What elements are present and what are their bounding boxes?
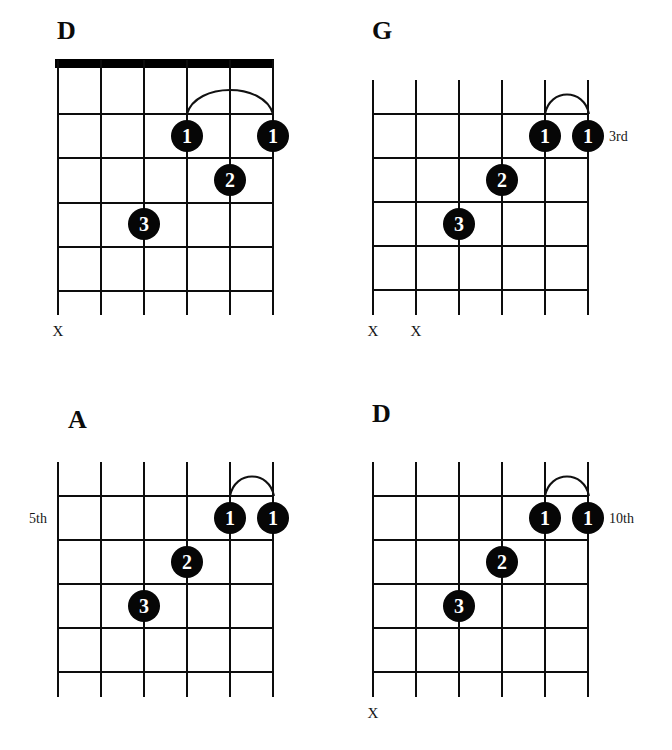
fret-line-5 (57, 671, 272, 673)
string-line-3 (143, 462, 145, 697)
string-line-2 (100, 60, 102, 315)
string-line-6 (587, 80, 589, 315)
string-line-6 (272, 462, 274, 697)
fret-line-3 (57, 583, 272, 585)
finger-dot: 3 (443, 590, 475, 622)
string-line-4 (186, 462, 188, 697)
finger-dot: 1 (529, 120, 561, 152)
finger-dot: 2 (486, 546, 518, 578)
string-line-5 (544, 80, 546, 315)
finger-dot: 3 (443, 208, 475, 240)
fretboard-grid-a-5th: 1 1 2 3 5th (57, 462, 272, 697)
fret-position-label: 5th (13, 512, 47, 526)
chord-diagram-d-open: D 1 1 2 3 X (0, 0, 336, 375)
finger-dot: 2 (486, 164, 518, 196)
muted-string-marker: X (51, 324, 65, 339)
fret-line-5 (57, 290, 272, 292)
finger-dot: 2 (214, 164, 246, 196)
barre-arc (544, 468, 590, 498)
fret-line-4 (57, 246, 272, 248)
finger-dot: 1 (572, 120, 604, 152)
barre-arc (544, 86, 590, 116)
fretboard-grid-d-open: 1 1 2 3 X (57, 60, 274, 315)
finger-dot: 3 (128, 590, 160, 622)
fret-line-1 (372, 113, 587, 115)
string-line-4 (501, 462, 503, 697)
finger-dot: 2 (171, 546, 203, 578)
muted-string-marker: X (409, 324, 423, 339)
string-line-4 (186, 60, 188, 315)
fret-line-3 (372, 201, 587, 203)
string-line-5 (229, 462, 231, 697)
fret-line-2 (57, 539, 272, 541)
string-line-2 (415, 80, 417, 315)
string-line-3 (143, 60, 145, 315)
finger-dot: 1 (572, 502, 604, 534)
string-line-1 (57, 462, 59, 697)
muted-string-marker: X (366, 324, 380, 339)
finger-dot: 1 (214, 502, 246, 534)
fretboard-grid-d-10th: 1 1 2 3 10th X (372, 462, 587, 697)
fret-line-4 (57, 627, 272, 629)
fret-line-3 (57, 202, 272, 204)
barre-arc (229, 468, 275, 498)
chord-diagram-g-3rd: G 1 1 2 3 3rd X X (336, 0, 672, 375)
string-line-3 (458, 462, 460, 697)
string-line-2 (415, 462, 417, 697)
string-line-6 (272, 60, 274, 315)
string-line-1 (372, 462, 374, 697)
fretboard-grid-g-3rd: 1 1 2 3 3rd X X (372, 80, 587, 315)
string-line-1 (372, 80, 374, 315)
chord-title-d-open: D (57, 18, 76, 44)
finger-dot: 1 (171, 120, 203, 152)
chord-diagram-a-5th: A 1 1 2 3 5th (0, 375, 336, 750)
finger-dot: 1 (529, 502, 561, 534)
fret-line-1 (372, 495, 587, 497)
chord-diagram-d-10th: D 1 1 2 3 10th X (336, 375, 672, 750)
fret-position-label: 3rd (609, 130, 628, 144)
chord-chart-sheet: D 1 1 2 3 X (0, 0, 672, 750)
string-line-4 (501, 80, 503, 315)
fret-line-2 (372, 157, 587, 159)
fret-line-5 (372, 289, 587, 291)
fret-line-4 (372, 627, 587, 629)
fret-line-2 (57, 157, 272, 159)
fret-line-4 (372, 245, 587, 247)
nut-bar (55, 59, 274, 68)
fret-line-5 (372, 671, 587, 673)
chord-title-a-5th: A (68, 407, 87, 433)
muted-string-marker: X (366, 706, 380, 721)
finger-dot: 3 (128, 208, 160, 240)
finger-dot: 1 (257, 120, 289, 152)
fret-line-1 (57, 113, 272, 115)
chord-title-d-10th: D (372, 401, 391, 427)
string-line-6 (587, 462, 589, 697)
string-line-1 (57, 60, 59, 315)
fret-position-label: 10th (609, 512, 634, 526)
fret-line-1 (57, 495, 272, 497)
fret-line-2 (372, 539, 587, 541)
string-line-2 (100, 462, 102, 697)
finger-dot: 1 (257, 502, 289, 534)
string-line-5 (544, 462, 546, 697)
fret-line-3 (372, 583, 587, 585)
string-line-3 (458, 80, 460, 315)
chord-title-g-3rd: G (372, 18, 392, 44)
